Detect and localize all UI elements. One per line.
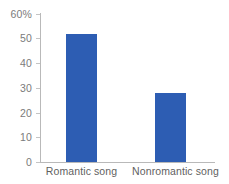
x-axis-label-nonromantic-song: Nonromantic song [125, 165, 226, 177]
y-axis-tick-50 [36, 38, 40, 39]
y-axis-tick-10 [36, 137, 40, 138]
y-axis-tick-60 [36, 14, 40, 15]
y-axis-tick-30 [36, 88, 40, 89]
bar-romantic-song [66, 34, 97, 162]
y-axis-label-60: 60% [0, 8, 32, 20]
y-axis-label-20: 20 [0, 107, 32, 119]
y-axis-tick-40 [36, 63, 40, 64]
y-axis-label-0: 0 [0, 156, 32, 168]
y-axis-label-50: 50 [0, 32, 32, 44]
y-axis-line [40, 13, 41, 163]
y-axis-label-10: 10 [0, 131, 32, 143]
y-axis-tick-20 [36, 113, 40, 114]
y-axis-tick-0 [36, 162, 40, 163]
bar-nonromantic-song [155, 93, 186, 162]
bar-chart: 60% 50 40 30 20 10 0 Romantic song Nonro… [0, 0, 229, 184]
x-axis-label-romantic-song: Romantic song [41, 165, 122, 177]
x-axis-line [40, 162, 215, 163]
y-axis-label-40: 40 [0, 57, 32, 69]
y-axis-label-30: 30 [0, 82, 32, 94]
